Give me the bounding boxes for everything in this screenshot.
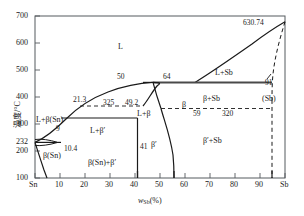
point-label-9: 9 (56, 125, 60, 133)
point-label-64: 64 (163, 73, 171, 81)
x-tick-60: 60 (180, 181, 188, 189)
x-tick-sn: Sn (29, 181, 37, 189)
region-label-beta-Sb: β+Sb (203, 95, 220, 103)
y-tick-400: 400 (16, 93, 28, 101)
point-label-325: 325 (103, 99, 114, 107)
point-label-320: 320 (222, 110, 233, 118)
region-label-beta-Sn: β(Sn) (43, 152, 61, 160)
region-label-L-beta-Sn: L+β(Sn) (36, 116, 63, 124)
point-label-50: 50 (117, 73, 125, 81)
point-label-49-2: 49.2 (125, 99, 138, 107)
region-label-L-Sb: L+Sb (215, 69, 233, 77)
point-label-21-3: 21.3 (73, 96, 86, 104)
x-tick-10: 10 (55, 181, 63, 189)
region-label-L: L (118, 43, 123, 51)
x-tick-30: 30 (105, 181, 113, 189)
x-tick-sb: Sb (280, 181, 288, 189)
point-label-59: 59 (193, 110, 201, 118)
x-tick-50: 50 (155, 181, 163, 189)
region-label-L-beta-prime: L+β′ (90, 127, 105, 135)
region-label-Sb-solid: (Sb) (262, 95, 276, 103)
region-label-beta-prime-Sb: β′+Sb (203, 137, 222, 145)
point-label-10-4: 10.4 (64, 145, 77, 153)
y-tick-200: 200 (16, 147, 28, 155)
x-axis-title: wSb(%) (138, 196, 162, 205)
y-tick-600: 600 (16, 39, 28, 47)
y-tick-100: 100 (16, 174, 28, 182)
y-tick-500: 500 (16, 66, 28, 74)
point-label-41: 41 (140, 143, 148, 151)
x-tick-80: 80 (230, 181, 238, 189)
y-tick-232: 232 (16, 138, 28, 146)
phase-diagram-figure: 700 600 500 400 300 232 200 100 Sn 10 20… (0, 0, 304, 216)
y-axis-title: 温度/°C (11, 101, 22, 128)
point-label-630-74: 630.74 (243, 19, 264, 27)
y-tick-700: 700 (16, 12, 28, 20)
region-label-beta: β (182, 101, 186, 109)
region-label-beta-prime: β′ (151, 141, 157, 149)
region-label-beta-Sn-beta-prime: β(Sn)+β′ (88, 159, 116, 167)
x-tick-70: 70 (205, 181, 213, 189)
x-tick-40: 40 (130, 181, 138, 189)
x-tick-90: 90 (255, 181, 263, 189)
x-tick-20: 20 (80, 181, 88, 189)
point-label-91: 91 (265, 79, 273, 87)
region-label-L-beta: L+β (137, 110, 150, 118)
x-axis-title-suffix: (%) (150, 196, 162, 205)
